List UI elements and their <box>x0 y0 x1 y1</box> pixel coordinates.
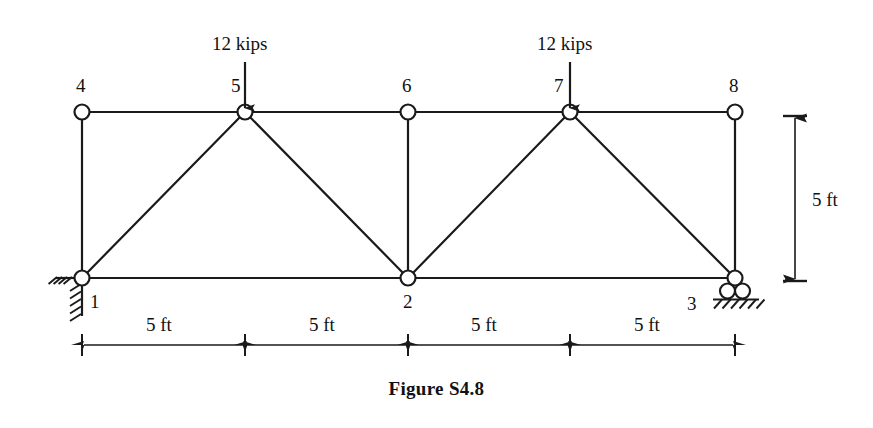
dimension-label-horizontal-3: 5 ft <box>471 315 497 334</box>
truss-node-1 <box>75 271 90 286</box>
truss-node-6 <box>401 105 416 120</box>
truss-node-2 <box>401 271 416 286</box>
node-label-5: 5 <box>231 76 241 95</box>
node-label-4: 4 <box>76 76 86 95</box>
node-label-2: 2 <box>403 292 413 311</box>
load-label-node-7: 12 kips <box>537 34 592 53</box>
truss-member-7-3 <box>574 116 731 273</box>
node-label-7: 7 <box>554 76 564 95</box>
dimension-lines <box>82 116 807 356</box>
truss-diagram <box>0 0 873 428</box>
node-label-1: 1 <box>90 292 100 311</box>
node-label-6: 6 <box>402 76 412 95</box>
node-label-3: 3 <box>687 294 697 313</box>
truss-node-8 <box>728 105 743 120</box>
truss-member-2-7 <box>412 116 566 273</box>
truss-node-3 <box>728 271 743 286</box>
dimension-label-horizontal-4: 5 ft <box>634 315 660 334</box>
figure-container: 1234567812 kips12 kips5 ft5 ft5 ft5 ft5 … <box>0 0 873 428</box>
figure-caption: Figure S4.8 <box>0 378 873 400</box>
node-label-8: 8 <box>729 76 739 95</box>
truss-member-5-2 <box>249 116 404 273</box>
support-roller-node-3 <box>713 284 765 309</box>
truss-node-4 <box>75 105 90 120</box>
dimension-label-vertical-1: 5 ft <box>812 190 838 209</box>
dimension-label-horizontal-1: 5 ft <box>146 315 172 334</box>
truss-members <box>82 112 735 278</box>
dimension-label-horizontal-2: 5 ft <box>309 315 335 334</box>
load-label-node-5: 12 kips <box>212 34 267 53</box>
support-hatching-below <box>714 300 765 309</box>
truss-member-1-5 <box>86 116 241 273</box>
support-hatching-below <box>70 284 81 321</box>
